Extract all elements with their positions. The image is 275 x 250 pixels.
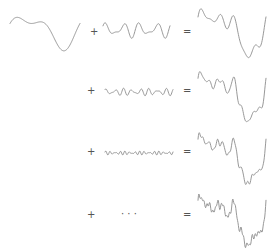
plus-operator: + (87, 209, 95, 220)
component-waveform-3 (105, 151, 173, 155)
plus-operator: + (87, 146, 95, 157)
equals-operator: = (183, 209, 191, 220)
partial-sum-waveform-2 (198, 72, 266, 122)
plus-operator: + (87, 85, 95, 96)
component-waveform-2 (105, 88, 173, 96)
equals-operator: = (183, 85, 191, 96)
ellipsis: · · · (121, 208, 137, 219)
waveform-sum-diagram: + = + = + = + · · · = (0, 0, 275, 250)
equals-operator: = (183, 26, 191, 37)
row-1: + = (10, 9, 266, 58)
component-waveform-1 (103, 23, 170, 39)
equals-operator: = (183, 146, 191, 157)
row-4: + · · · = (87, 194, 266, 248)
partial-sum-waveform-1 (198, 9, 266, 58)
row-2: + = (87, 72, 266, 122)
plus-operator: + (90, 26, 98, 37)
row-3: + = (87, 133, 266, 185)
base-waveform (10, 17, 80, 51)
partial-sum-waveform-4 (198, 194, 266, 248)
partial-sum-waveform-3 (198, 133, 266, 185)
